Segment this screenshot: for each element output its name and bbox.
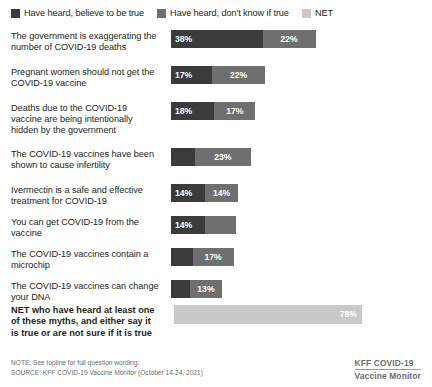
chart-container: Have heard, believe to be true Have hear… [0,0,432,387]
bar-segment-believe-true: 14% [171,184,205,202]
bar-row-label: The COVID-19 vaccines can change your DN… [0,280,160,303]
bar-row: Ivermectin is a safe and effective treat… [0,184,432,207]
bar-segment-believe-true [171,148,195,166]
stacked-bar: 13% [171,280,432,298]
bar-row-label: The government is exaggerating the numbe… [0,30,160,53]
bar-area: 14%14% [160,184,432,204]
bar-segment-value-label: 14% [171,221,192,230]
bar-area: 23% [160,148,432,168]
net-row-label: NET who have heard at least one of these… [0,305,160,339]
bar-area: 14% [160,216,432,236]
bar-row-label: The COVID-19 vaccines contain a microchi… [0,248,160,271]
chart-legend: Have heard, believe to be true Have hear… [11,9,333,18]
bar-row-label: You can get COVID-19 from the vaccine [0,216,160,239]
legend-label-net: NET [315,9,333,18]
bar-area: 13% [160,280,432,300]
bar-segment-dont-know: 14% [205,184,239,202]
legend-label-dont-know: Have heard, don't know if true [170,9,289,18]
bar-segment-dont-know [205,216,236,234]
bar-row-label: Deaths due to the COVID-19 vaccine are b… [0,102,160,137]
net-row: NET who have heard at least one of these… [0,305,432,339]
bar-segment-value-label: 13% [190,285,221,294]
bar-segment-value-label: 17% [214,107,255,116]
bar-area: 18%17% [160,102,432,122]
bar-segment-value-label: 22% [263,35,316,44]
bar-segment-value-label: 14% [205,189,239,198]
bar-row-label: The COVID-19 vaccines have been shown to… [0,148,160,171]
bar-segment-value-label: 14% [171,189,192,198]
bar-row: The COVID-19 vaccines have been shown to… [0,148,432,171]
bar-segment-value-label: 18% [171,107,192,116]
stacked-bar: 14%14% [171,184,432,202]
bar-segment-dont-know: 17% [193,248,234,266]
net-value-label: 78% [340,310,362,319]
bar-segment-dont-know: 22% [212,66,265,84]
bar-segment-dont-know: 17% [214,102,255,120]
bar-segment-value-label: 17% [193,253,234,262]
bar-row: The COVID-19 vaccines contain a microchi… [0,248,432,271]
bar-segment-believe-true: 18% [171,102,214,120]
bar-segment-dont-know: 23% [195,148,250,166]
stacked-bar: 38%22% [171,30,432,48]
legend-label-believe-true: Have heard, believe to be true [24,9,144,18]
brand-line-1: KFF COVID-19 [355,358,421,370]
bar-segment-value-label: 23% [195,153,250,162]
bar-segment-dont-know: 22% [263,30,316,48]
legend-item-dont-know: Have heard, don't know if true [157,9,289,18]
bar-row-label: Pregnant women should not get the COVID-… [0,66,160,89]
brand-line-2: Vaccine Monitor [355,370,421,381]
source-text: SOURCE: KFF COVID-19 Vaccine Monitor (Oc… [11,368,203,378]
bar-segment-dont-know: 13% [190,280,221,298]
square-swatch-dark-icon [11,9,20,18]
stacked-bar: 23% [171,148,432,166]
stacked-bar: 14% [171,216,432,234]
bar-segment-value-label: 22% [212,71,265,80]
bar-segment-believe-true [171,248,193,266]
bar-row: Deaths due to the COVID-19 vaccine are b… [0,102,432,137]
bar-segment-value-label: 38% [171,35,192,44]
bar-segment-believe-true: 14% [171,216,205,234]
note-text: NOTE: See topline for full question word… [11,358,203,368]
bar-segment-believe-true: 17% [171,66,212,84]
chart-footer: NOTE: See topline for full question word… [0,358,432,381]
legend-item-net: NET [302,9,333,18]
bar-row: You can get COVID-19 from the vaccine14% [0,216,432,239]
net-bar: 78% [174,305,362,324]
stacked-bar: 17%22% [171,66,432,84]
square-swatch-light-icon [302,9,311,18]
bar-segment-believe-true: 38% [171,30,263,48]
bar-row: The COVID-19 vaccines can change your DN… [0,280,432,303]
kff-brand: KFF COVID-19 Vaccine Monitor [355,358,421,381]
legend-item-believe-true: Have heard, believe to be true [11,9,144,18]
stacked-bar: 17% [171,248,432,266]
footnotes: NOTE: See topline for full question word… [11,358,203,377]
stacked-bar: 18%17% [171,102,432,120]
bar-row: Pregnant women should not get the COVID-… [0,66,432,89]
bar-area: 17% [160,248,432,268]
square-swatch-mid-icon [157,9,166,18]
bar-area: 38%22% [160,30,432,50]
bar-row: The government is exaggerating the numbe… [0,30,432,53]
bar-area: 17%22% [160,66,432,86]
bar-segment-value-label: 17% [171,71,192,80]
bar-segment-believe-true [171,280,190,298]
bar-row-label: Ivermectin is a safe and effective treat… [0,184,160,207]
net-bar-area: 78% [160,305,432,324]
